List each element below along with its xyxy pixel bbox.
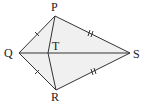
label-p: P: [51, 0, 58, 14]
label-q: Q: [4, 46, 13, 60]
diagram-canvas: P Q R S T: [0, 0, 148, 103]
kite-diagram: P Q R S T: [0, 0, 148, 103]
label-r: R: [51, 90, 59, 103]
label-s: S: [133, 47, 140, 61]
label-t: T: [52, 39, 60, 53]
